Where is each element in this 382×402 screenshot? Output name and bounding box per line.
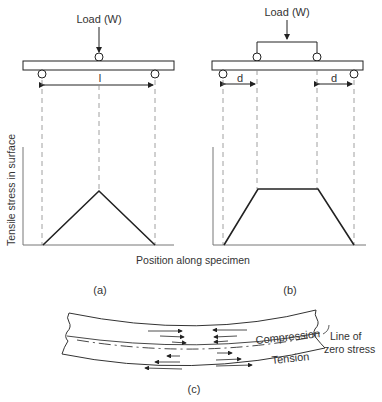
neutral-label-line1: Line of	[330, 330, 362, 342]
support-roller-left-icon	[219, 70, 227, 78]
dashed-guides-b	[223, 70, 354, 245]
compression-arrows	[148, 330, 247, 343]
load-roller-right-icon	[313, 53, 321, 61]
beam-specimen	[23, 61, 174, 70]
stress-profile-trapezoid	[224, 189, 354, 245]
chart-b	[213, 147, 366, 245]
left-d-label: d	[237, 72, 243, 84]
caption-b: (b)	[283, 284, 296, 296]
caption-c: (c)	[188, 383, 201, 395]
load-spreader-bar	[257, 42, 317, 53]
load-label-a: Load (W)	[76, 13, 121, 25]
support-roller-left-icon	[38, 70, 46, 78]
chart-a	[23, 147, 174, 245]
right-d-label: d	[331, 72, 337, 84]
tension-arrows	[145, 353, 252, 369]
tension-label: Tension	[271, 350, 310, 366]
y-axis-label: Tensile stress in surface	[5, 134, 17, 246]
diagram-c-bent-beam: Compression Tension Line of zero stress …	[62, 310, 375, 395]
dashed-guides-a	[42, 80, 155, 245]
break-edge-left	[62, 313, 70, 354]
load-roller-icon	[95, 53, 103, 61]
beam-specimen	[212, 61, 363, 70]
flexure-test-figure: Load (W) l (a) Load (W) d d	[0, 0, 382, 402]
load-roller-left-icon	[253, 53, 261, 61]
support-roller-right-icon	[350, 70, 358, 78]
x-axis-label: Position along specimen	[136, 254, 250, 266]
diagram-b-four-point: Load (W) d d (b)	[212, 6, 366, 296]
stress-profile-triangle	[43, 191, 155, 245]
neutral-label-line2: zero stress	[324, 343, 375, 355]
caption-a: (a)	[93, 284, 106, 296]
beam-top-edge	[69, 310, 316, 326]
neutral-leader-line	[323, 325, 329, 334]
span-label: l	[99, 72, 101, 84]
support-roller-right-icon	[151, 70, 159, 78]
load-label-b: Load (W)	[264, 6, 309, 18]
compression-label: Compression	[255, 327, 321, 346]
